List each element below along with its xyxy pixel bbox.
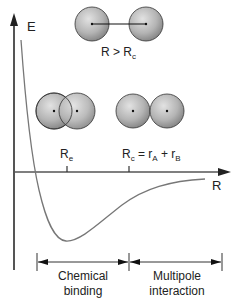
label-separated: R > Rc [101, 45, 136, 61]
x-axis-arrow-icon [218, 168, 231, 176]
label-equilibrium: Re [60, 147, 74, 163]
x-axis [14, 166, 231, 176]
arrow-right-icon [118, 259, 128, 265]
arrow-left-icon [130, 259, 140, 265]
arrow-left-icon [38, 259, 48, 265]
y-axis-arrow-icon [10, 13, 18, 26]
potential-curve [21, 40, 205, 241]
region-multipole-line2: interaction [149, 284, 204, 298]
region-chemical-line1: Chemical [58, 269, 108, 283]
region-multipole-line1: Multipole [153, 269, 201, 283]
potential-energy-diagram: E R R > Rc Re Rc = rA + rB [0, 0, 243, 302]
region-chemical-line2: binding [64, 284, 103, 298]
x-axis-label: R [212, 178, 221, 193]
molecule-separated [75, 7, 163, 41]
label-contact: Rc = rA + rB [122, 147, 181, 163]
arrow-right-icon [211, 259, 221, 265]
molecule-equilibrium [36, 93, 95, 129]
y-axis-label: E [27, 19, 36, 34]
molecule-contact [116, 94, 184, 128]
y-axis [10, 13, 18, 270]
